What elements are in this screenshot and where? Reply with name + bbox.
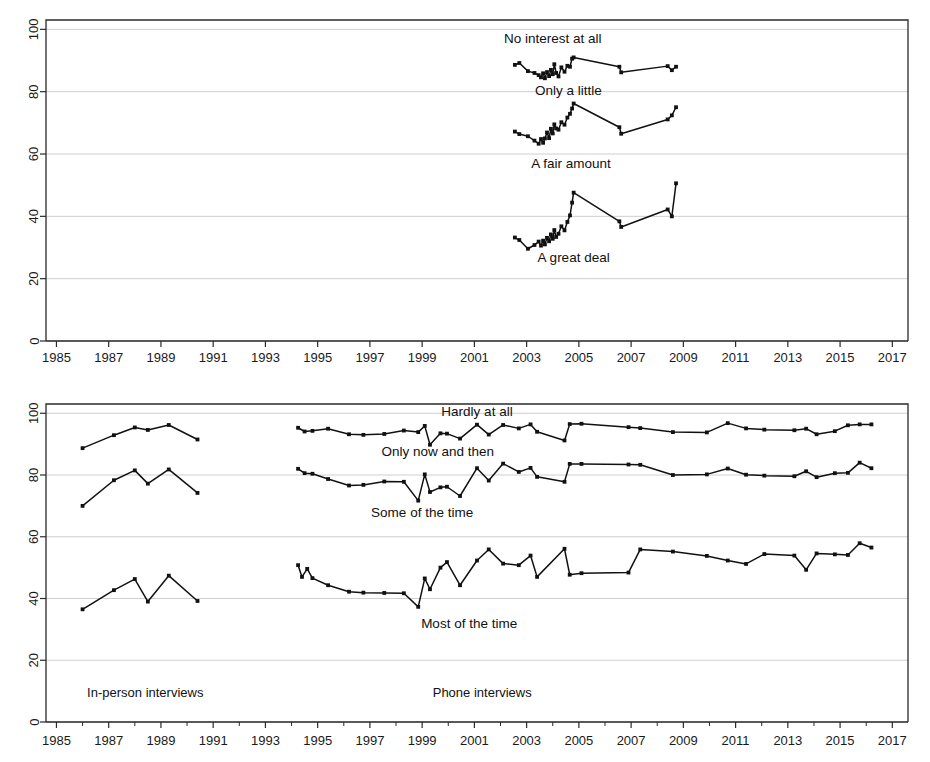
data-point bbox=[744, 473, 748, 477]
data-point bbox=[627, 463, 631, 467]
x-tick-label-1989: 1989 bbox=[146, 733, 175, 748]
x-tick-label-1997: 1997 bbox=[355, 733, 384, 748]
data-point bbox=[539, 137, 543, 141]
data-point bbox=[81, 504, 85, 508]
x-tick-label-2007: 2007 bbox=[617, 350, 646, 365]
data-point bbox=[563, 547, 567, 551]
data-point bbox=[557, 128, 561, 132]
series-line bbox=[298, 543, 871, 607]
y-tick-label-100: 100 bbox=[27, 402, 42, 424]
series-line bbox=[83, 576, 198, 610]
data-point bbox=[815, 432, 819, 436]
data-point bbox=[475, 466, 479, 470]
y-tick-label-20: 20 bbox=[27, 653, 42, 667]
data-point bbox=[762, 474, 766, 478]
data-point bbox=[705, 431, 709, 435]
data-point bbox=[539, 244, 543, 248]
series-line bbox=[83, 425, 198, 448]
annotation-4: In-person interviews bbox=[87, 685, 204, 700]
data-point bbox=[762, 552, 766, 556]
x-tick-label-2013: 2013 bbox=[773, 350, 802, 365]
x-tick-label-1999: 1999 bbox=[408, 733, 437, 748]
annotation-1: Only a little bbox=[535, 83, 602, 98]
y-tick-label-80: 80 bbox=[27, 84, 42, 98]
data-point bbox=[526, 247, 530, 251]
x-tick-label-1985: 1985 bbox=[42, 733, 71, 748]
data-point bbox=[666, 64, 670, 68]
data-point bbox=[382, 480, 386, 484]
x-tick-label-2017: 2017 bbox=[878, 350, 907, 365]
data-point bbox=[347, 432, 351, 436]
x-tick-label-2009: 2009 bbox=[669, 733, 698, 748]
data-point bbox=[416, 499, 420, 503]
data-point bbox=[671, 550, 675, 554]
data-point bbox=[81, 607, 85, 611]
attention-to-politics-chart: 0204060801001985198719891991199319951997… bbox=[0, 381, 930, 762]
data-point bbox=[361, 591, 365, 595]
x-tick-label-2013: 2013 bbox=[773, 733, 802, 748]
x-tick-label-2011: 2011 bbox=[722, 350, 750, 365]
data-point bbox=[423, 424, 427, 428]
data-point bbox=[563, 439, 567, 443]
data-point bbox=[627, 571, 631, 575]
data-point bbox=[568, 573, 572, 577]
data-point bbox=[196, 491, 200, 495]
data-point bbox=[545, 131, 549, 135]
data-point bbox=[81, 446, 85, 450]
data-point bbox=[705, 554, 709, 558]
x-tick-label-1987: 1987 bbox=[94, 350, 123, 365]
data-point bbox=[547, 136, 551, 140]
data-point bbox=[563, 228, 567, 232]
data-point bbox=[300, 575, 304, 579]
y-tick-label-60: 60 bbox=[27, 530, 42, 544]
data-point bbox=[311, 429, 315, 433]
data-point bbox=[666, 118, 670, 122]
data-point bbox=[533, 71, 537, 75]
x-tick-label-2015: 2015 bbox=[826, 733, 855, 748]
data-point bbox=[112, 478, 116, 482]
series-0 bbox=[81, 423, 200, 450]
data-point bbox=[619, 225, 623, 229]
data-point bbox=[517, 563, 521, 567]
data-point bbox=[547, 74, 551, 78]
data-point bbox=[792, 428, 796, 432]
data-point bbox=[638, 426, 642, 430]
data-point bbox=[439, 431, 443, 435]
data-point bbox=[303, 471, 307, 475]
annotation-2: Some of the time bbox=[371, 505, 473, 520]
data-point bbox=[666, 208, 670, 212]
data-point bbox=[112, 588, 116, 592]
data-point bbox=[565, 116, 569, 120]
data-point bbox=[563, 123, 567, 127]
data-point bbox=[416, 430, 420, 434]
data-point bbox=[382, 432, 386, 436]
x-tick-label-2007: 2007 bbox=[617, 733, 646, 748]
data-point bbox=[804, 427, 808, 431]
series-2 bbox=[81, 574, 200, 611]
data-point bbox=[547, 239, 551, 243]
data-point bbox=[439, 566, 443, 570]
data-point bbox=[568, 65, 572, 69]
data-point bbox=[487, 548, 491, 552]
data-point bbox=[311, 576, 315, 580]
data-point bbox=[549, 68, 553, 72]
data-point bbox=[563, 480, 567, 484]
data-point bbox=[196, 599, 200, 603]
data-point bbox=[517, 132, 521, 136]
data-point bbox=[501, 423, 505, 427]
data-point bbox=[326, 583, 330, 587]
x-tick-label-1995: 1995 bbox=[303, 733, 332, 748]
data-point bbox=[744, 562, 748, 566]
data-point bbox=[517, 238, 521, 242]
data-point bbox=[475, 559, 479, 563]
data-point bbox=[537, 240, 541, 244]
data-point bbox=[146, 600, 150, 604]
data-point bbox=[549, 127, 553, 131]
data-point bbox=[382, 591, 386, 595]
data-point bbox=[513, 130, 517, 134]
data-point bbox=[744, 426, 748, 430]
series-line bbox=[515, 104, 676, 144]
data-point bbox=[167, 574, 171, 578]
data-point bbox=[529, 554, 533, 558]
data-point bbox=[568, 214, 572, 218]
